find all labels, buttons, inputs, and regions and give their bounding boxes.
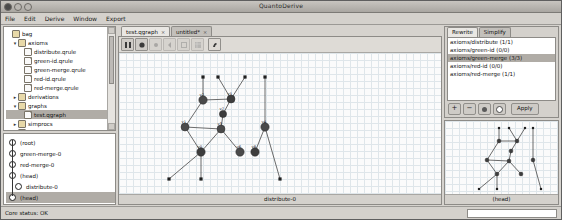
graph-boundary-node[interactable] (243, 75, 246, 78)
graph-vertex[interactable] (227, 95, 235, 103)
graph-boundary-node[interactable] (478, 188, 480, 190)
graph-boundary-node[interactable] (199, 177, 202, 180)
rewrite-rule-item[interactable]: axioms/red-id (0/0) (448, 62, 555, 70)
rewrite-rule-item[interactable]: axioms/green-id (0/0) (448, 46, 555, 54)
graph-boundary-node[interactable] (496, 188, 498, 190)
close-icon[interactable]: × (161, 29, 165, 35)
tree-item[interactable]: ▾axioms (6, 38, 115, 47)
graph-boundary-node[interactable] (532, 127, 534, 129)
graph-boundary-node[interactable] (167, 177, 170, 180)
graph-vertex-label: v2 (200, 93, 204, 97)
tree-item[interactable]: ▸derivations (6, 92, 115, 101)
preview-panel: (head) (444, 120, 559, 205)
graph-editor: v2v5v7v3v1v0v6v4v8 distribute-0 (118, 36, 442, 205)
graph-boundary-node[interactable] (540, 188, 542, 190)
tree-item[interactable]: ▾graphs (6, 101, 115, 110)
history-item[interactable]: (head) (6, 170, 115, 181)
editor-tab-strip: test.qgraph × untitled* × (118, 26, 442, 36)
graph-edge (185, 127, 221, 129)
graph-vertex[interactable] (507, 159, 511, 163)
copy-tool-icon[interactable] (191, 38, 204, 51)
add-edge-tool-icon[interactable] (149, 38, 162, 51)
graph-boundary-node[interactable] (216, 75, 219, 78)
window-title: QuantoDerive (1, 2, 561, 9)
tab-rewrite[interactable]: Rewrite (447, 27, 478, 37)
add-bang-box-tool-icon[interactable] (163, 38, 176, 51)
add-rule-button[interactable]: + (448, 103, 461, 115)
graph-vertex[interactable] (495, 172, 499, 176)
tree-item-label: test.qgraph (34, 112, 66, 118)
tree-item[interactable]: ▸theorems (6, 128, 115, 131)
select-tool-icon[interactable] (121, 38, 134, 51)
add-vertex-tool-icon[interactable] (135, 38, 148, 51)
cut-tool-icon[interactable] (177, 38, 190, 51)
graph-vertex[interactable] (236, 148, 244, 156)
history-item[interactable]: distribute-0 (6, 181, 115, 192)
scroll-down-arrow[interactable] (108, 123, 115, 130)
menu-derive[interactable]: Derive (45, 15, 65, 22)
tree-item[interactable]: bag (6, 29, 115, 38)
graph-vertex[interactable] (251, 148, 259, 156)
graph-boundary-node[interactable] (524, 127, 526, 129)
menu-file[interactable]: File (5, 15, 15, 22)
graph-vertex[interactable] (197, 148, 205, 156)
status-progress-field (467, 209, 557, 218)
rewrite-rule-list[interactable]: axioms/distribute (1/1)axioms/green-id (… (447, 37, 556, 101)
graph-vertex[interactable] (199, 96, 207, 104)
tree-item[interactable]: green-id.qrule (6, 56, 115, 65)
scroll-up-arrow[interactable] (108, 27, 115, 34)
scroll-thumb[interactable] (109, 36, 114, 84)
tree-item[interactable]: ▸simprocs (6, 119, 115, 128)
project-tree-panel[interactable]: bag▾axiomsdistribute.qrulegreen-id.qrule… (3, 26, 116, 131)
rewrite-rule-item[interactable]: axioms/red-merge (1/1) (448, 70, 555, 78)
apply-button[interactable]: Apply (511, 103, 539, 115)
graph-boundary-node[interactable] (201, 75, 204, 78)
tab-test-qgraph[interactable]: test.qgraph × (121, 26, 170, 36)
history-item[interactable]: (root) (6, 137, 115, 148)
graph-vertex[interactable] (217, 125, 225, 133)
graph-vertex[interactable] (219, 110, 226, 117)
history-item[interactable]: (head) (6, 192, 115, 203)
tree-item[interactable]: red-id.qrule (6, 74, 115, 83)
history-item-label: green-merge-0 (20, 151, 61, 157)
graph-boundary-node[interactable] (508, 127, 510, 129)
document-icon (24, 75, 32, 83)
tree-item[interactable]: distribute.qrule (6, 47, 115, 56)
history-item[interactable]: green-merge-0 (6, 148, 115, 159)
next-match-button[interactable] (493, 103, 506, 115)
graph-boundary-node[interactable] (278, 177, 281, 180)
tree-item[interactable]: green-merge.qrule (6, 65, 115, 74)
graph-vertex[interactable] (485, 158, 489, 162)
preview-canvas[interactable] (445, 121, 558, 194)
paste-tool-icon[interactable] (208, 38, 221, 51)
graph-vertex[interactable] (261, 123, 269, 131)
rewrite-rule-item[interactable]: axioms/distribute (1/1) (448, 38, 555, 46)
tree-item[interactable]: red-merge.qrule (6, 83, 115, 92)
editor-caption: distribute-0 (119, 194, 441, 204)
graph-vertex-label: v6 (237, 145, 242, 149)
menu-window[interactable]: Window (73, 15, 97, 22)
close-icon[interactable]: × (203, 29, 207, 35)
graph-vertex[interactable] (519, 172, 523, 176)
preview-graph-drawing (445, 121, 557, 193)
graph-vertex[interactable] (509, 149, 513, 153)
remove-rule-button[interactable]: − (463, 103, 476, 115)
graph-vertex[interactable] (531, 158, 535, 162)
derivation-history-panel[interactable]: (root)green-merge-0red-merge-0(head)dist… (3, 133, 116, 205)
tab-simplify[interactable]: Simplify (479, 27, 511, 37)
first-match-button[interactable] (478, 103, 491, 115)
graph-vertex[interactable] (181, 123, 189, 131)
tree-item[interactable]: test.qgraph (6, 110, 115, 119)
project-tree-scrollbar[interactable] (107, 27, 115, 130)
menu-export[interactable]: Export (106, 15, 126, 22)
graph-vertex[interactable] (515, 139, 519, 143)
graph-boundary-node[interactable] (263, 75, 266, 78)
tree-item-label: simprocs (28, 121, 53, 127)
rewrite-rule-item[interactable]: axioms/green-merge (3/3) (448, 54, 555, 62)
graph-vertex[interactable] (497, 139, 501, 143)
graph-boundary-node[interactable] (498, 127, 500, 129)
menu-edit[interactable]: Edit (24, 15, 36, 22)
tab-untitled[interactable]: untitled* × (171, 26, 212, 36)
history-item[interactable]: red-merge-0 (6, 159, 115, 170)
graph-canvas[interactable]: v2v5v7v3v1v0v6v4v8 (119, 53, 441, 194)
